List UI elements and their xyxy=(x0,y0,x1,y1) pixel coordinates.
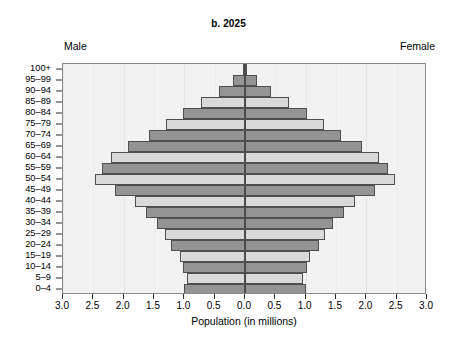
x-tick-label: 0.0 xyxy=(237,300,251,311)
y-tick-label: 90–94 xyxy=(25,86,51,95)
y-tick-label: 85–89 xyxy=(25,97,51,106)
bar-row xyxy=(63,218,425,229)
x-tick-label: 3.0 xyxy=(419,300,433,311)
y-tick-label: 65–69 xyxy=(25,141,51,150)
y-tick-label: 10–14 xyxy=(25,262,51,271)
bar-female xyxy=(245,75,257,86)
y-axis: 100+95–9990–9485–8980–8475–7970–7465–696… xyxy=(0,63,62,294)
y-tick-label: 80–84 xyxy=(25,108,51,117)
bar-female xyxy=(245,86,271,97)
bar-male xyxy=(165,229,245,240)
bar-female xyxy=(245,284,306,294)
bar-female xyxy=(245,251,310,262)
bar-female xyxy=(245,130,341,141)
x-axis: 3.02.52.01.51.00.50.00.51.01.52.02.53.0 xyxy=(62,294,426,316)
x-tick-label: 3.0 xyxy=(55,300,69,311)
male-side-label: Male xyxy=(64,40,87,52)
y-tick-label: 55–59 xyxy=(25,163,51,172)
bar-male xyxy=(183,108,245,119)
bar-female xyxy=(245,229,325,240)
bar-male xyxy=(184,284,245,294)
bar-male xyxy=(180,251,245,262)
x-tick-mark xyxy=(274,294,275,299)
bar-female xyxy=(245,141,362,152)
bar-female xyxy=(245,185,375,196)
x-tick-label: 2.0 xyxy=(358,300,372,311)
bar-row xyxy=(63,75,425,86)
bar-row xyxy=(63,262,425,273)
bar-row xyxy=(63,207,425,218)
bar-male xyxy=(135,196,245,207)
bar-female xyxy=(245,273,303,284)
y-tick-label: 20–24 xyxy=(25,240,51,249)
y-tick-label: 5–9 xyxy=(35,273,51,282)
x-tick-label: 0.5 xyxy=(267,300,281,311)
y-tick-label: 45–49 xyxy=(25,185,51,194)
x-tick-mark xyxy=(365,294,366,299)
bar-male xyxy=(166,119,245,130)
x-tick-mark xyxy=(183,294,184,299)
bar-female xyxy=(245,218,333,229)
bar-male xyxy=(171,240,245,251)
bar-row xyxy=(63,229,425,240)
x-tick-mark xyxy=(244,294,245,299)
bar-male xyxy=(157,218,245,229)
y-tick-label: 100+ xyxy=(30,64,51,73)
bar-row xyxy=(63,174,425,185)
bar-row xyxy=(63,163,425,174)
bar-row xyxy=(63,97,425,108)
y-tick-label: 0–4 xyxy=(35,284,51,293)
x-tick-mark xyxy=(396,294,397,299)
x-tick-mark xyxy=(335,294,336,299)
x-tick-label: 1.0 xyxy=(298,300,312,311)
bar-female xyxy=(245,207,344,218)
bar-male xyxy=(95,174,245,185)
y-tick-label: 35–39 xyxy=(25,207,51,216)
x-tick-mark xyxy=(62,294,63,299)
population-pyramid-figure: b. 2025 Male Female 100+95–9990–9485–898… xyxy=(0,0,457,353)
bar-male xyxy=(201,97,245,108)
bar-female xyxy=(245,163,388,174)
y-tick-label: 70–74 xyxy=(25,130,51,139)
chart-title: b. 2025 xyxy=(0,18,457,29)
bar-row xyxy=(63,240,425,251)
female-side-label: Female xyxy=(400,40,435,52)
bar-male xyxy=(219,86,245,97)
x-tick-label: 1.5 xyxy=(146,300,160,311)
x-tick-mark xyxy=(153,294,154,299)
bar-female xyxy=(245,108,307,119)
bar-row xyxy=(63,119,425,130)
y-tick-label: 40–44 xyxy=(25,196,51,205)
bar-row xyxy=(63,108,425,119)
y-tick-label: 50–54 xyxy=(25,174,51,183)
x-tick-mark xyxy=(123,294,124,299)
bar-male xyxy=(233,75,245,86)
bar-male xyxy=(115,185,245,196)
x-tick-label: 1.5 xyxy=(328,300,342,311)
y-tick-label: 75–79 xyxy=(25,119,51,128)
y-tick-label: 15–19 xyxy=(25,251,51,260)
plot-area xyxy=(62,63,426,294)
bar-female xyxy=(245,196,355,207)
bar-row xyxy=(63,64,425,75)
bar-female xyxy=(245,240,319,251)
bar-row xyxy=(63,273,425,284)
y-tick-label: 25–29 xyxy=(25,229,51,238)
bar-male xyxy=(102,163,245,174)
x-tick-label: 2.0 xyxy=(116,300,130,311)
y-tick-label: 60–64 xyxy=(25,152,51,161)
bar-row xyxy=(63,284,425,294)
x-tick-mark xyxy=(305,294,306,299)
x-tick-label: 2.5 xyxy=(85,300,99,311)
bar-female xyxy=(245,174,395,185)
y-tick-label: 30–34 xyxy=(25,218,51,227)
x-tick-label: 1.0 xyxy=(176,300,190,311)
bar-row xyxy=(63,86,425,97)
x-tick-mark xyxy=(92,294,93,299)
bar-male xyxy=(128,141,245,152)
bar-row xyxy=(63,196,425,207)
bar-female xyxy=(245,119,324,130)
bar-male xyxy=(111,152,245,163)
bar-female xyxy=(245,97,289,108)
bar-row xyxy=(63,251,425,262)
